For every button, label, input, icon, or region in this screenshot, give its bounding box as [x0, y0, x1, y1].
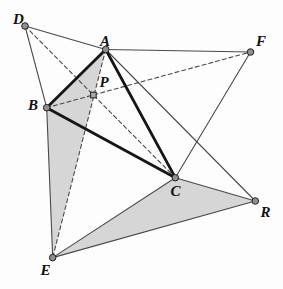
point-label-C: C: [170, 183, 181, 199]
point-label-R: R: [259, 204, 270, 220]
point-dot-E: [49, 254, 56, 261]
point-dot-B: [43, 104, 50, 111]
point-dot-R: [252, 198, 259, 205]
point-label-A: A: [99, 33, 110, 49]
figure-page: DAFBCREP: [0, 0, 283, 289]
point-label-B: B: [27, 97, 38, 113]
point-dot-C: [172, 174, 179, 181]
point-dot-F: [247, 49, 254, 56]
point-label-D: D: [12, 11, 24, 27]
point-label-E: E: [39, 262, 50, 278]
geometry-figure: DAFBCREP: [0, 0, 283, 289]
point-label-F: F: [255, 33, 266, 49]
point-marker-P-square: [91, 92, 97, 98]
point-label-P: P: [99, 74, 109, 90]
